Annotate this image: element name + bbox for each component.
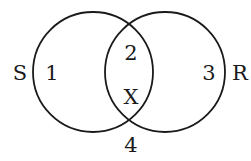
venn-diagram: S R 1 2 3 X 4	[0, 0, 251, 161]
region-1-label: 1	[45, 61, 58, 85]
region-3-label: 3	[202, 61, 215, 85]
region-4-label: 4	[124, 133, 137, 157]
set-s-label: S	[13, 61, 27, 85]
venn-svg: S R 1 2 3 X 4	[0, 0, 251, 161]
region-x-label: X	[124, 85, 139, 109]
region-2-label: 2	[124, 41, 137, 65]
set-r-label: R	[232, 61, 249, 85]
